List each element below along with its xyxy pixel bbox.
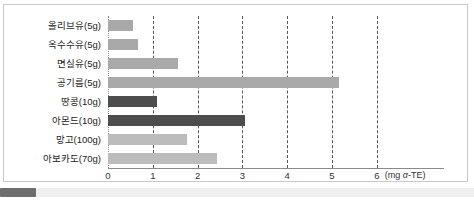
x-tick-label: 2 (195, 170, 200, 181)
gridline (287, 16, 288, 168)
bar (108, 134, 187, 145)
bar (108, 96, 157, 107)
gridline (242, 16, 243, 168)
x-tick-label: 5 (329, 170, 334, 181)
screenshot-root: 올리브유(5g)옥수수유(5g)면실유(5g)공기름(5g)땅콩(10g)아몬드… (0, 0, 474, 200)
x-tick-label: 6 (374, 170, 379, 181)
category-label: 아보카도(70g) (43, 149, 101, 168)
bar (108, 39, 138, 50)
x-tick-label: 3 (240, 170, 245, 181)
category-label: 공기름(5g) (57, 73, 101, 92)
category-label: 망고(100g) (56, 130, 101, 149)
bar (108, 58, 178, 69)
category-label: 아몬드(10g) (52, 111, 101, 130)
bar (108, 153, 217, 164)
gridline (153, 16, 154, 168)
category-label: 옥수수유(5g) (48, 35, 101, 54)
category-label: 면실유(5g) (57, 54, 101, 73)
gridline (377, 16, 378, 168)
bar (108, 20, 133, 31)
category-axis-labels: 올리브유(5g)옥수수유(5g)면실유(5g)공기름(5g)땅콩(10g)아몬드… (4, 16, 104, 168)
x-tick-label: 4 (285, 170, 290, 181)
x-axis-line (108, 168, 444, 169)
x-tick-label: 1 (150, 170, 155, 181)
bar (108, 77, 339, 88)
category-label: 올리브유(5g) (48, 16, 101, 35)
bar-chart: 올리브유(5g)옥수수유(5g)면실유(5g)공기름(5g)땅콩(10g)아몬드… (4, 5, 469, 183)
plot-area (108, 16, 444, 168)
x-axis-unit-label: (mg α-TE) (385, 170, 426, 180)
chart-card: 올리브유(5g)옥수수유(5g)면실유(5g)공기름(5g)땅콩(10g)아몬드… (3, 4, 468, 182)
x-axis-tick-labels: 0123456(mg α-TE) (4, 170, 469, 184)
x-tick-label: 0 (105, 170, 110, 181)
horizontal-scrollbar-track[interactable] (0, 188, 474, 197)
gridline (198, 16, 199, 168)
bar (108, 115, 245, 126)
category-label: 땅콩(10g) (61, 92, 101, 111)
horizontal-scrollbar-thumb[interactable] (0, 188, 36, 197)
gridline (332, 16, 333, 168)
